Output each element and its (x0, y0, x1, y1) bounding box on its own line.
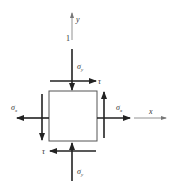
x-axis: x (134, 107, 166, 118)
svg-text:σx: σx (116, 103, 123, 113)
sigma-x-right-arrow: σx (97, 103, 130, 118)
svg-text:σy: σy (77, 167, 84, 177)
sigma-y-bottom-subscript: y (80, 172, 84, 177)
y-axis-label: y (75, 15, 80, 24)
tau-bottom-label: τ (42, 147, 46, 156)
tau-top-arrow: τ (50, 77, 102, 86)
sigma-y-top-arrow: σy (72, 49, 84, 90)
sigma-x-right-subscript: x (119, 108, 123, 113)
sigma-x-left-subscript: x (14, 108, 18, 113)
svg-text:σx: σx (11, 103, 18, 113)
svg-text:σy: σy (77, 62, 84, 72)
x-axis-label: x (148, 107, 153, 116)
tau-top-label: τ (98, 77, 102, 86)
marker-one-label: 1 (66, 34, 70, 43)
diagram-svg: y 1 x σy τ σx σ (0, 0, 179, 193)
stress-element-square (49, 91, 97, 141)
y-axis: y 1 (66, 13, 80, 43)
stress-element-diagram: y 1 x σy τ σx σ (0, 0, 179, 193)
sigma-x-left-arrow: σx (11, 103, 49, 118)
tau-bottom-arrow: τ (42, 147, 96, 156)
sigma-y-bottom-arrow: σy (72, 143, 84, 181)
sigma-y-top-subscript: y (80, 67, 84, 72)
